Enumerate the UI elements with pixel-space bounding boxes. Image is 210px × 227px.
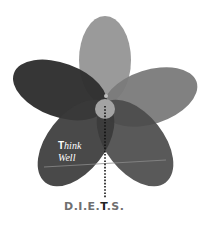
flower-graphic bbox=[0, 0, 210, 227]
flower-diagram: Think Well D.I.E.T.S. bbox=[0, 0, 210, 227]
diets-caption: D.I.E.T.S. bbox=[64, 200, 124, 213]
well-text: Well bbox=[58, 152, 81, 164]
center-dot bbox=[104, 94, 108, 98]
think-rest: hink bbox=[64, 140, 81, 151]
think-well-label: Think Well bbox=[58, 140, 81, 164]
diets-part1: D.I.E. bbox=[64, 200, 100, 213]
diets-part2: .S. bbox=[107, 200, 125, 213]
